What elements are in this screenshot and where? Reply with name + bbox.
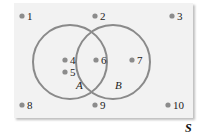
set-b-label: B bbox=[115, 79, 122, 91]
svg-text:2: 2 bbox=[100, 10, 106, 22]
svg-text:8: 8 bbox=[27, 99, 33, 111]
svg-text:10: 10 bbox=[173, 99, 185, 111]
svg-text:4: 4 bbox=[70, 54, 76, 66]
svg-text:1: 1 bbox=[27, 10, 33, 22]
universe-label: S bbox=[185, 121, 192, 135]
svg-text:5: 5 bbox=[70, 66, 76, 78]
svg-text:3: 3 bbox=[177, 10, 183, 22]
svg-text:6: 6 bbox=[101, 54, 107, 66]
set-a-label: A bbox=[75, 79, 83, 91]
svg-text:9: 9 bbox=[100, 99, 106, 111]
venn-diagram: 1 2 3 4 5 6 7 8 9 10 A B S bbox=[0, 0, 201, 136]
svg-text:7: 7 bbox=[137, 54, 143, 66]
